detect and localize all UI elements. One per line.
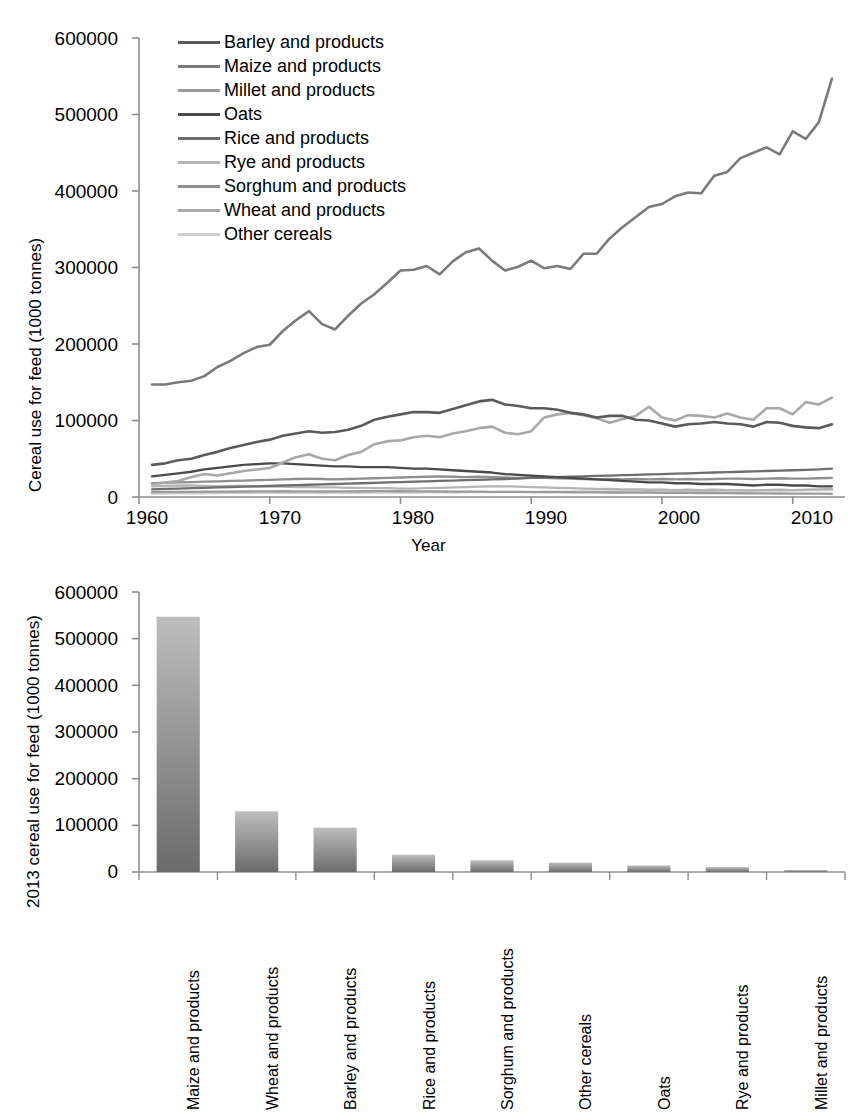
legend-item[interactable]: Barley and products: [178, 30, 406, 54]
bar-category-label: Sorghum and products: [500, 948, 516, 1110]
legend-item[interactable]: Rye and products: [178, 150, 406, 174]
x-tick-label: 1960: [107, 508, 187, 527]
legend-item[interactable]: Sorghum and products: [178, 174, 406, 198]
legend-item-label: Sorghum and products: [224, 177, 406, 195]
x-tick-label: 1980: [373, 508, 453, 527]
bar-category-label: Oats: [657, 1076, 673, 1110]
legend-item-label: Millet and products: [224, 81, 375, 99]
bar-chart-panel: 2013 cereal use for feed (1000 tonnes) 6…: [0, 570, 857, 1116]
x-tick-label: 2010: [772, 508, 852, 527]
legend-item-label: Barley and products: [224, 33, 384, 51]
legend-line-swatch: [178, 113, 220, 116]
legend-line-swatch: [178, 209, 220, 212]
legend-item[interactable]: Other cereals: [178, 222, 406, 246]
x-tick-label: 1990: [506, 508, 586, 527]
x-tick-label: 2000: [639, 508, 719, 527]
figure-container: Cereal use for feed (1000 tonnes) 600000…: [0, 0, 857, 1116]
legend-item[interactable]: Maize and products: [178, 54, 406, 78]
legend-line-swatch: [178, 185, 220, 188]
legend-line-swatch: [178, 137, 220, 140]
legend-item-label: Oats: [224, 105, 262, 123]
legend-item-label: Maize and products: [224, 57, 381, 75]
bar-category-label: Wheat and products: [265, 967, 281, 1110]
bar-category-label: Other cereals: [578, 1014, 594, 1110]
bar-category-label: Millet and products: [814, 976, 830, 1110]
x-tick-label: 1970: [240, 508, 320, 527]
legend-item[interactable]: Wheat and products: [178, 198, 406, 222]
bar-category-label: Rice and products: [422, 981, 438, 1110]
bar-category-label: Maize and products: [186, 970, 202, 1110]
legend-line-swatch: [178, 89, 220, 92]
line-chart-plot-area: [0, 0, 857, 510]
legend-item-label: Rice and products: [224, 129, 369, 147]
legend-line-swatch: [178, 233, 220, 236]
legend-line-swatch: [178, 65, 220, 68]
legend-line-swatch: [178, 161, 220, 164]
bar-chart-category-labels: Maize and productsWheat and productsBarl…: [0, 570, 857, 1116]
line-chart-x-axis-title: Year: [0, 536, 857, 556]
bar-category-label: Barley and products: [343, 968, 359, 1110]
legend-item[interactable]: Rice and products: [178, 126, 406, 150]
legend-item-label: Wheat and products: [224, 201, 385, 219]
legend-item-label: Rye and products: [224, 153, 365, 171]
legend-line-swatch: [178, 41, 220, 44]
line-chart-panel: Cereal use for feed (1000 tonnes) 600000…: [0, 0, 857, 570]
line-chart-legend: Barley and products Maize and products M…: [178, 30, 406, 246]
legend-item[interactable]: Millet and products: [178, 78, 406, 102]
legend-item[interactable]: Oats: [178, 102, 406, 126]
bar-category-label: Rye and products: [735, 985, 751, 1110]
legend-item-label: Other cereals: [224, 225, 332, 243]
